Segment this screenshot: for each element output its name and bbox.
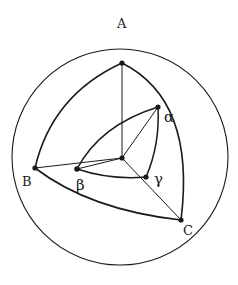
radius-O-alpha	[122, 107, 158, 158]
label-beta: β	[76, 176, 85, 194]
vertex-C	[178, 217, 183, 222]
arc-alpha-gamma	[146, 107, 158, 177]
vertex-A	[119, 60, 124, 65]
label-C: C	[183, 223, 193, 238]
vertex-O	[119, 155, 124, 160]
vertex-B	[32, 165, 37, 170]
arc-top-C	[122, 63, 184, 220]
vertex-beta	[74, 166, 80, 172]
label-A: A	[116, 16, 127, 31]
radius-O-beta	[77, 158, 122, 169]
label-gamma: γ	[154, 170, 163, 188]
arc-alpha-beta	[77, 107, 158, 169]
arc-beta-gamma	[77, 169, 146, 178]
spherical-triangle-diagram: A B C α β γ	[0, 0, 238, 285]
vertex-alpha	[155, 104, 160, 109]
label-B: B	[22, 174, 32, 189]
vertex-gamma	[143, 174, 148, 179]
label-alpha: α	[164, 108, 174, 126]
arc-top-B	[35, 63, 122, 168]
